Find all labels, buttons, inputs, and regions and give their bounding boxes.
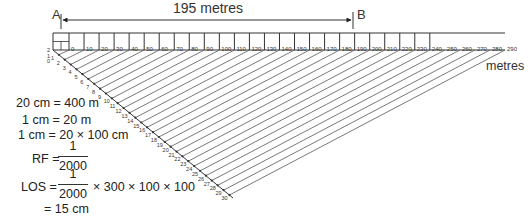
diagonal-point [146,126,148,128]
diagonal-point [70,63,72,65]
unit-label: metres [486,59,524,73]
hatch-line [100,50,174,89]
los-multiplier: × 300 × 100 × 100 [93,181,195,194]
rf-label: RF = [32,153,59,166]
diagonal-point [128,112,130,114]
diagonal-point [140,121,142,123]
dimension-label: 195 metres [173,0,243,16]
hatch-line [212,50,460,181]
diagonal-label: 8 [92,89,95,95]
tick-label: 260 [462,46,473,52]
fraction-bar [58,156,88,157]
tick-label: 40 [131,46,138,52]
tick-label: 20 [101,46,108,52]
diagonal-point [58,54,60,56]
tick-label: 120 [251,46,262,52]
diagonal-point [187,160,189,162]
hatch-line [229,50,505,195]
diagonal-point [199,170,201,172]
diagonal-point [93,83,95,85]
tick-label: 0 [71,46,75,52]
hatch-line [141,50,279,123]
diagonal-point [222,189,224,191]
diagonal-point [117,102,119,104]
diagonal-point [211,179,213,181]
rf-numerator: 1 [58,140,88,153]
diagonal-point [134,117,136,119]
hatch-line [77,50,115,69]
diagonal-point [170,146,172,148]
tick-label: 70 [176,46,183,52]
calc-result: = 15 cm [44,203,89,216]
secondary-labels: 210 [47,47,50,64]
hatch-line [159,50,325,137]
diagonal-label: 1 [51,55,54,61]
hatch-lines [53,50,505,198]
calc-line-2: 1 cm = 20 m [22,114,91,127]
marker-b-label: B [357,7,366,22]
calc-line-1: 20 cm = 400 m [16,97,99,110]
tick-label: 170 [327,46,338,52]
diagonal-point [228,194,230,196]
hatch-line [106,50,189,94]
diagonal-point [105,92,107,94]
hatch-line [200,50,430,171]
diagonal-label: 11 [110,103,116,109]
hatch-line [118,50,220,103]
diagonal-point [75,68,77,70]
hatch-line [88,50,144,79]
hatch-line [153,50,310,132]
hatch-line [171,50,355,147]
diagonal-point [164,141,166,143]
tick-label: 280 [492,46,503,52]
tick-label: 90 [206,46,213,52]
hatch-line [82,50,129,74]
tick-label: 140 [281,46,292,52]
tick-label: 10 [86,46,93,52]
hatch-line [112,50,205,98]
dimension-line: A B 195 metres [52,0,366,29]
hatch-line [194,50,415,166]
tick-label: 150 [297,46,308,52]
diagonal-point [111,97,113,99]
diagonal-label: 7 [86,84,89,90]
diagonal-point [205,175,207,177]
tick-label: 190 [357,46,368,52]
diagonal-point [217,184,219,186]
diagonal-point [87,78,89,80]
diagonal-point [81,73,83,75]
diagonal-label: 30 [221,195,227,201]
diagonal-point [193,165,195,167]
hatch-line [182,50,384,156]
los-numerator: 1 [58,168,88,181]
hatch-line [188,50,400,161]
tick-label: 230 [417,46,428,52]
diagonal-label: 4 [69,69,72,75]
tick-label: 270 [477,46,488,52]
fraction-bar [58,184,88,185]
tick-label: 30 [116,46,123,52]
diagonal-point [99,88,101,90]
diagonal-label: 3 [63,65,66,71]
tick-label: 200 [372,46,383,52]
secondary-label: 0 [47,58,50,64]
diagonal-point [122,107,124,109]
hatch-line [224,50,490,190]
tick-label: 180 [342,46,353,52]
los-label: LOS = [21,181,57,194]
diagonal-point [158,136,160,138]
hatch-line [65,50,84,60]
marker-a-label: A [52,7,61,22]
tick-label: 240 [432,46,443,52]
diagonal-label: 6 [80,79,83,85]
tick-label: 110 [236,46,246,52]
hatch-line [71,50,99,65]
diagonal-point [64,59,66,61]
hatch-line [147,50,294,127]
diagonal-point [181,155,183,157]
tick-label: 160 [312,46,323,52]
hatch-line [165,50,340,142]
diagonal-point [152,131,154,133]
hatch-line [59,50,69,55]
tick-label: 60 [161,46,168,52]
